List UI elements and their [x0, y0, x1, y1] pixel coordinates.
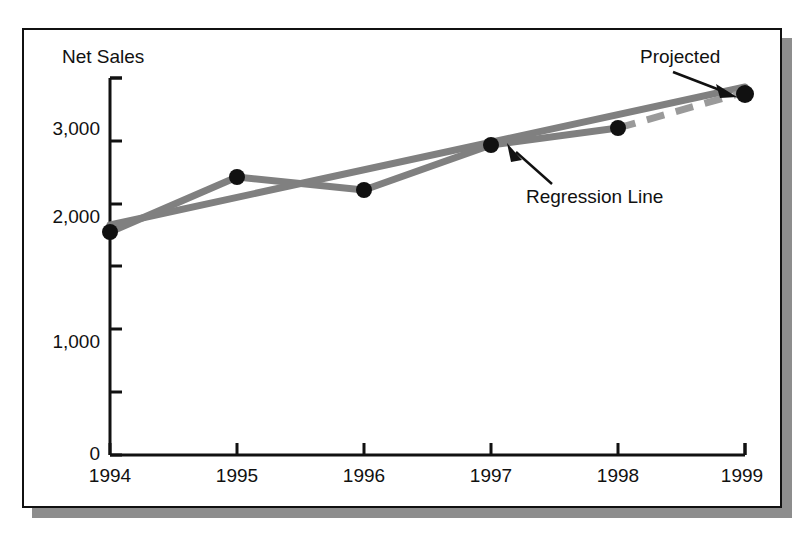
data-point-1999-projected	[736, 85, 754, 103]
y-axis-title: Net Sales	[62, 46, 144, 68]
net-sales-line	[110, 128, 618, 232]
x-axis-ticks	[110, 443, 745, 455]
data-point-1997	[483, 137, 499, 153]
chart-plot-area	[0, 0, 805, 537]
data-point-1995	[229, 169, 245, 185]
x-tick-label-1995: 1995	[197, 465, 277, 487]
y-tick-label-1000: 1,000	[22, 331, 100, 353]
x-tick-label-1994: 1994	[70, 465, 150, 487]
regression-arrowhead	[507, 143, 522, 162]
regression-annotation-label: Regression Line	[526, 186, 663, 208]
data-point-1994	[102, 224, 118, 240]
data-point-1996	[356, 182, 372, 198]
x-tick-label-1999: 1999	[702, 465, 782, 487]
y-tick-label-3000: 3,000	[22, 118, 100, 140]
y-tick-label-2000: 2,000	[22, 206, 100, 228]
regression-callout-arrow	[516, 152, 552, 184]
y-tick-label-0: 0	[22, 443, 100, 465]
x-tick-label-1996: 1996	[324, 465, 404, 487]
x-tick-label-1997: 1997	[451, 465, 531, 487]
projected-annotation-label: Projected	[640, 46, 720, 68]
projected-callout-arrow	[673, 72, 725, 92]
x-tick-label-1998: 1998	[578, 465, 658, 487]
data-point-1998	[610, 120, 626, 136]
y-axis-ticks	[110, 78, 122, 455]
chart-figure: Net Sales 3,000 2,000 1,000 0 1994 1995 …	[0, 0, 805, 537]
